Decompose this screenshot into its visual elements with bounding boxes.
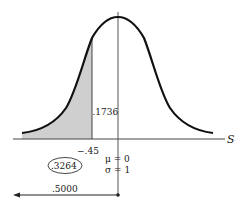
axis-label-s: S (227, 133, 235, 146)
half-area-label: .5000 (52, 184, 78, 194)
normal-curve-diagram: S .1736 −.45 μ = 0 σ = 1 .3264 .5000 (0, 0, 241, 223)
shaded-area-label: .3264 (51, 161, 77, 171)
arrowhead-left-icon (13, 193, 20, 198)
shaded-area (22, 38, 92, 139)
table-area-label: .1736 (93, 107, 119, 117)
arrow-end-dot (116, 193, 120, 197)
mean-label: μ = 0 (105, 154, 130, 164)
cutoff-label: −.45 (77, 146, 99, 156)
sd-label: σ = 1 (105, 165, 130, 175)
